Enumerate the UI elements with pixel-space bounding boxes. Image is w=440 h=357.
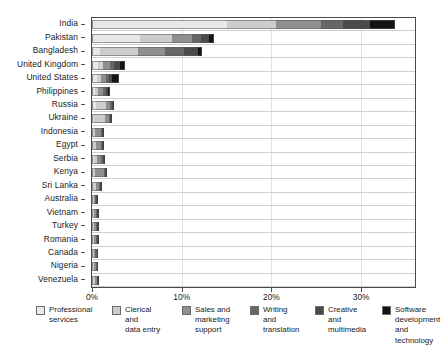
horizontal-gridline (92, 84, 415, 85)
bar-segment (92, 34, 140, 43)
y-axis-tick (81, 104, 85, 105)
legend-label: Creative and multimedia (328, 305, 366, 336)
y-axis-tick (81, 199, 85, 200)
legend-color-swatch (182, 306, 191, 315)
bar-segment (98, 276, 99, 285)
bar-segment (97, 262, 98, 271)
bar-kenya[interactable] (92, 168, 107, 177)
y-axis-tick (81, 131, 85, 132)
y-axis-tick (81, 118, 85, 119)
x-axis-tick-label: 0% (86, 292, 98, 302)
legend-item[interactable]: Professional services (36, 305, 92, 325)
legend-color-swatch (112, 306, 121, 315)
horizontal-gridline (92, 44, 415, 45)
vertical-gridline (361, 18, 362, 287)
legend-label: Professional services (49, 305, 92, 325)
horizontal-gridline (92, 165, 415, 166)
bar-nigeria[interactable] (92, 262, 98, 271)
y-axis-label: Russia (52, 98, 78, 111)
bar-segment (104, 155, 105, 164)
bar-sri-lanka[interactable] (92, 182, 102, 191)
legend-label: Writing and translation (263, 305, 299, 336)
vertical-gridline (271, 18, 272, 287)
bar-segment (96, 101, 106, 110)
chart-legend: Professional servicesClerical and data e… (0, 305, 427, 353)
y-axis-tick (81, 212, 85, 213)
legend-label: Software development and technology (395, 305, 440, 346)
horizontal-gridline (92, 57, 415, 58)
y-axis-label: Venezuela (38, 273, 78, 286)
bar-segment (198, 47, 202, 56)
legend-item[interactable]: Writing and translation (250, 305, 299, 336)
y-axis-labels: IndiaPakistanBangladeshUnited KingdomUni… (0, 17, 78, 288)
horizontal-gridline (92, 98, 415, 99)
bar-segment (227, 20, 276, 29)
bar-egypt[interactable] (92, 141, 104, 150)
y-axis-tick (81, 239, 85, 240)
legend-item[interactable]: Sales and marketing support (182, 305, 230, 336)
bar-vietnam[interactable] (92, 209, 99, 218)
y-axis-tick (81, 279, 85, 280)
bar-united-kingdom[interactable] (92, 61, 125, 70)
bar-segment (95, 168, 104, 177)
y-axis-tick (81, 252, 85, 253)
horizontal-gridline (92, 246, 415, 247)
legend-item[interactable]: Clerical and data entry (112, 305, 160, 336)
horizontal-gridline (92, 205, 415, 206)
horizontal-gridline (92, 232, 415, 233)
legend-label: Clerical and data entry (125, 305, 160, 336)
bar-russia[interactable] (92, 101, 114, 110)
bar-segment (106, 168, 107, 177)
bar-segment (140, 34, 171, 43)
bar-segment (321, 20, 343, 29)
y-axis-tick (81, 37, 85, 38)
bar-romania[interactable] (92, 235, 99, 244)
legend-color-swatch (382, 306, 391, 315)
bar-canada[interactable] (92, 249, 98, 258)
bar-ukraine[interactable] (92, 114, 112, 123)
bar-segment (92, 47, 100, 56)
bar-pakistan[interactable] (92, 34, 214, 43)
y-axis-tick (81, 266, 85, 267)
bar-indonesia[interactable] (92, 128, 104, 137)
horizontal-gridline (92, 111, 415, 112)
legend-item[interactable]: Software development and technology (382, 305, 440, 346)
bar-segment (98, 235, 99, 244)
y-axis-label: Nigeria (51, 259, 78, 272)
legend-color-swatch (250, 306, 259, 315)
legend-label: Sales and marketing support (195, 305, 230, 336)
bar-segment (97, 195, 98, 204)
plot-box (91, 17, 416, 288)
bar-bangladesh[interactable] (92, 47, 202, 56)
bar-segment (172, 34, 192, 43)
x-axis-ticks: 0%10%20%30% (91, 288, 416, 302)
bar-india[interactable] (92, 20, 395, 29)
bar-serbia[interactable] (92, 155, 105, 164)
bar-segment (92, 20, 227, 29)
bar-australia[interactable] (92, 195, 98, 204)
bar-turkey[interactable] (92, 222, 99, 231)
bar-segment (165, 47, 185, 56)
y-axis-tick (81, 91, 85, 92)
bar-segment (103, 61, 110, 70)
horizontal-gridline (92, 125, 415, 126)
x-axis-tick-label: 10% (173, 292, 190, 302)
legend-color-swatch (315, 306, 324, 315)
y-axis-tick (81, 51, 85, 52)
bar-philippines[interactable] (92, 87, 110, 96)
y-axis-label: Romania (44, 233, 78, 246)
legend-item[interactable]: Creative and multimedia (315, 305, 366, 336)
y-axis-label: Indonesia (41, 125, 78, 138)
y-axis-tick (81, 145, 85, 146)
horizontal-gridline (92, 273, 415, 274)
bar-segment (98, 222, 99, 231)
bar-segment (120, 61, 125, 70)
bar-segment (101, 182, 102, 191)
x-axis-tick-label: 30% (353, 292, 370, 302)
bar-venezuela[interactable] (92, 276, 99, 285)
y-axis-label: Serbia (53, 152, 78, 165)
bar-segment (108, 87, 110, 96)
bar-segment (100, 47, 138, 56)
bar-united-states[interactable] (92, 74, 119, 83)
